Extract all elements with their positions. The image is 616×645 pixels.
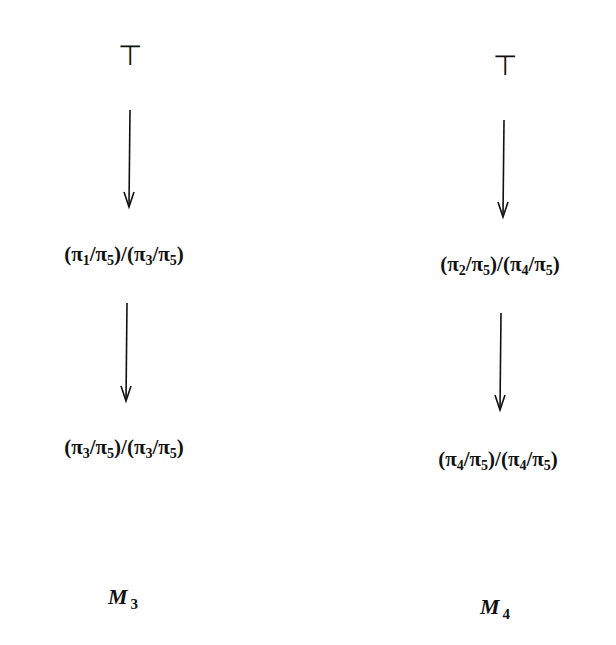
node-m4-1: (π2/π5)/(π4/π5) [440, 254, 560, 278]
arrow-down-icon [117, 303, 137, 403]
node-m4-2: (π4/π5)/(π4/π5) [438, 449, 558, 473]
arrow-down-icon [491, 313, 511, 413]
arrow-down-icon [494, 120, 514, 220]
node-m3-1: (π1/π5)/(π3/π5) [64, 244, 184, 268]
model-label-m3: M3 [108, 584, 138, 613]
arrow-down-icon [120, 110, 140, 210]
top-symbol-m4: ⊤ [493, 52, 517, 80]
model-label-m4: M4 [480, 594, 510, 623]
node-m3-2: (π3/π5)/(π3/π5) [64, 437, 184, 461]
top-symbol-m3: ⊤ [118, 42, 142, 70]
